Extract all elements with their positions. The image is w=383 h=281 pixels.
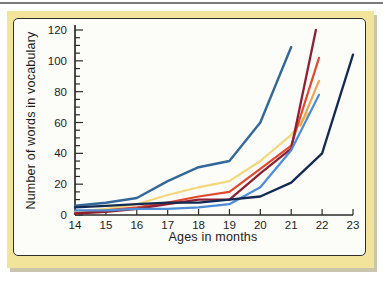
y-tick-label: 40 <box>54 147 67 159</box>
x-tick-label: 22 <box>316 219 329 231</box>
y-axis-title: Number of words in vocabulary <box>24 25 39 217</box>
x-axis-title: Ages in months <box>113 230 313 244</box>
y-tick-label: 20 <box>54 178 67 190</box>
x-tick-label: 15 <box>99 219 112 231</box>
series-line-child-maroon <box>75 30 316 214</box>
series-line-child-steel-blue <box>75 47 291 206</box>
y-tick-label: 100 <box>48 55 67 67</box>
y-tick-label: 120 <box>48 24 67 36</box>
y-tick-label: 60 <box>54 117 67 129</box>
x-tick-label: 14 <box>69 219 82 231</box>
series-line-child-red <box>75 58 319 214</box>
x-tick-label: 23 <box>347 219 360 231</box>
y-tick-label: 80 <box>54 86 67 98</box>
y-tick-label: 0 <box>61 209 67 221</box>
